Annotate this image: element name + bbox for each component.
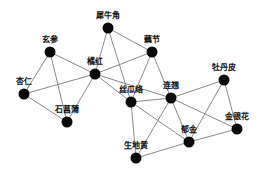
edge-juhong-oujie <box>95 52 152 74</box>
node-xiniujiao <box>103 23 114 34</box>
node-oujie <box>147 47 158 58</box>
node-label-lianqiao: 连翘 <box>163 81 179 90</box>
node-label-juhong: 橘红 <box>87 57 103 66</box>
node-shichangpu <box>62 117 73 128</box>
node-jinyinhua <box>232 124 243 135</box>
edge-sigualuo-lianqiao <box>131 98 171 102</box>
edge-mudanpi-jinyinhua <box>224 80 237 129</box>
node-xingren <box>19 89 30 100</box>
node-label-yujin: 郁金 <box>181 125 197 134</box>
edge-oujie-lianqiao <box>152 52 171 98</box>
edge-oujie-sigualuo <box>131 52 152 102</box>
node-label-sigualuo: 丝瓜络 <box>119 85 143 94</box>
node-label-xiniujiao: 犀牛角 <box>96 11 120 20</box>
node-sigualuo <box>126 97 137 108</box>
node-label-jinyinhua: 金银花 <box>225 112 249 121</box>
node-label-xingren: 杏仁 <box>16 77 32 86</box>
node-label-shengdihuang: 生地黄 <box>124 141 148 150</box>
edge-xiniujiao-juhong <box>95 28 108 74</box>
node-mudanpi <box>219 75 230 86</box>
node-lianqiao <box>166 93 177 104</box>
node-label-shichangpu: 石菖蒲 <box>55 105 79 114</box>
node-xuanshen <box>45 47 56 58</box>
node-juhong <box>90 69 101 80</box>
node-label-xuanshen: 玄参 <box>42 35 58 44</box>
node-yujin <box>184 137 195 148</box>
node-label-oujie: 藕节 <box>144 35 160 44</box>
node-label-mudanpi: 牡丹皮 <box>212 63 236 72</box>
node-shengdihuang <box>131 153 142 164</box>
